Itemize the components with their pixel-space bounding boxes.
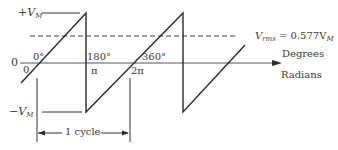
deg-360-label: 360° [142, 52, 166, 62]
vm-neg-label: −VM [9, 106, 33, 119]
vrms-label: Vrms = 0.577VM [255, 31, 334, 43]
axis-degrees-label: Degrees [282, 49, 324, 59]
origin-label-left: 0 [11, 57, 18, 68]
cycle-label: 1 cycle [65, 127, 101, 137]
deg-180-label: 180° [87, 52, 111, 62]
rad-2pi-label: 2π [131, 66, 144, 76]
vm-pos-label: +VM [18, 7, 42, 20]
deg-0-label: 0° [33, 52, 44, 62]
rad-pi-label: π [91, 66, 98, 76]
axis-radians-label: Radians [281, 70, 322, 80]
cycle-arrowhead-right [122, 131, 129, 136]
sawtooth-diagram: +VM −VM 0 0 0° 180° π 360° 2π Vrms = 0.5… [0, 0, 338, 150]
axis-arrowhead [272, 60, 282, 66]
cycle-arrowhead-left [38, 131, 45, 136]
origin-label-below: 0 [23, 65, 29, 75]
